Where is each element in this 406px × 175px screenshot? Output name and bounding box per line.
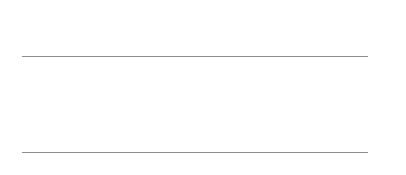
- decimation-figure: [0, 0, 406, 175]
